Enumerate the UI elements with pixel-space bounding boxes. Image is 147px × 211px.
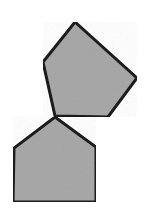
two-pentagons-figure <box>0 0 147 211</box>
figure-canvas <box>0 0 147 211</box>
